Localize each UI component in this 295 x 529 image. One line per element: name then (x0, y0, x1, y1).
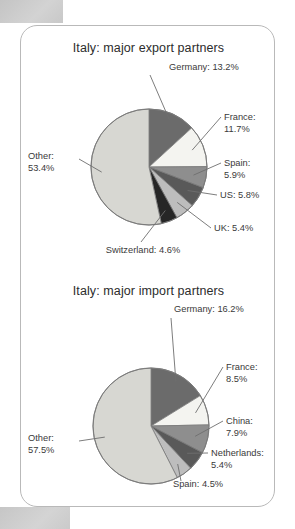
export-label-uk: UK: 5.4% (214, 223, 253, 235)
leader-line-uk (177, 202, 211, 228)
scan-artifact-bottom-left (0, 507, 70, 529)
export-label-switzerland: Switzerland: 4.6% (88, 245, 198, 257)
page-root: Italy: major export partners Germany: 13… (0, 0, 295, 529)
leader-line-france (196, 367, 224, 413)
export-label-germany: Germany: 13.2% (169, 62, 239, 74)
export-label-other: Other: 53.4% (28, 151, 54, 174)
figure-card: Italy: major export partners Germany: 13… (20, 25, 275, 507)
import-label-germany: Germany: 16.2% (174, 304, 244, 316)
import-label-china: China: 7.9% (226, 416, 253, 439)
export-label-us: US: 5.8% (220, 190, 259, 202)
import-label-spain: Spain: 4.5% (173, 479, 223, 491)
export-label-spain: Spain: 5.9% (224, 158, 250, 181)
scan-artifact-top-left (0, 0, 63, 23)
import-label-other: Other: 57.5% (28, 433, 54, 456)
export-label-france: France: 11.7% (224, 112, 256, 135)
import-label-france: France: 8.5% (226, 362, 258, 385)
import-chart-block: Italy: major import partners Germany: 16… (21, 278, 276, 506)
import-label-netherlands: Netherlands: 5.4% (211, 448, 264, 471)
export-chart-block: Italy: major export partners Germany: 13… (21, 29, 276, 269)
